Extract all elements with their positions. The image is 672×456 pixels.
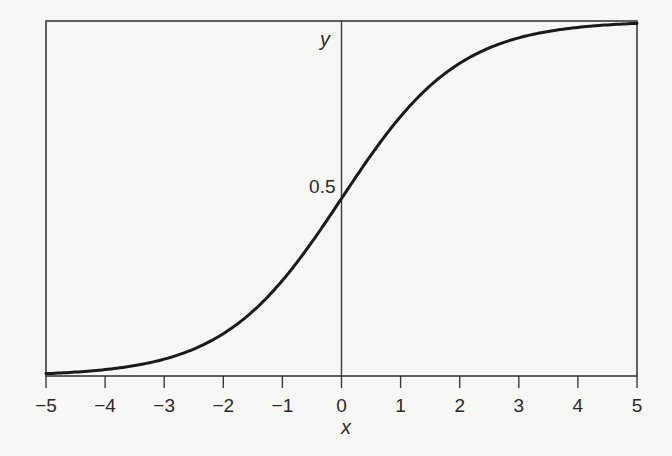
x-tick-label: 3	[514, 395, 525, 416]
x-tick-label: 0	[336, 395, 347, 416]
x-tick-label: −5	[35, 395, 57, 416]
x-tick-label: −3	[153, 395, 175, 416]
y-axis-tick-labels: 0.5	[309, 176, 335, 197]
x-tick-label: −4	[94, 395, 116, 416]
sigmoid-chart: −5−4−3−2−1012345 0.5 x y	[0, 0, 672, 456]
y-axis-label: y	[318, 28, 331, 50]
chart-background	[0, 0, 672, 456]
x-tick-label: 1	[395, 395, 406, 416]
x-axis-label: x	[340, 416, 352, 438]
y-tick-label: 0.5	[309, 176, 335, 197]
x-tick-label: −2	[212, 395, 234, 416]
x-tick-label: −1	[272, 395, 294, 416]
x-tick-label: 5	[632, 395, 643, 416]
x-tick-label: 4	[573, 395, 584, 416]
x-tick-label: 2	[454, 395, 465, 416]
